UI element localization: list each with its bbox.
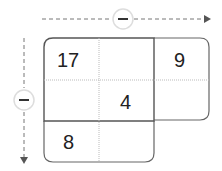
cell-r0c0: 17	[57, 50, 79, 70]
arrow-down-icon	[20, 157, 28, 164]
diagram-lines	[0, 0, 222, 171]
cell-r1c1: 4	[120, 92, 131, 112]
cell-r2c0: 8	[63, 132, 74, 152]
cell-r0c2: 9	[174, 50, 185, 70]
arrow-right-icon	[204, 15, 211, 23]
